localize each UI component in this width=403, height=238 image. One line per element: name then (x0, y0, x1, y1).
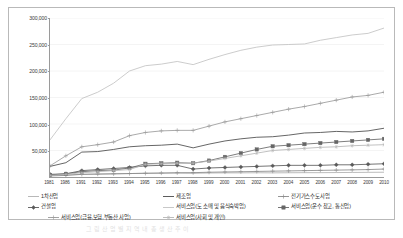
y-axis-tick-mark (48, 18, 50, 19)
y-axis-tick-label: 200,000 (29, 68, 47, 74)
legend-item-label: 1차산업 (41, 194, 58, 199)
figure-caption: 그 림 산 업 별 지 역 내 총 생 산 추 이 (86, 224, 318, 236)
figure-caption-text: 그 림 산 업 별 지 역 내 총 생 산 추 이 (86, 224, 318, 233)
x-axis-tick-label: 1997 (172, 180, 182, 185)
legend-marker-icon (163, 204, 174, 211)
legend-item[interactable]: 건설업 (28, 204, 55, 211)
legend-item[interactable]: 전기가스수도사업 (278, 193, 329, 200)
x-axis-tick-label: 2002 (252, 180, 262, 185)
x-axis-tick-label: 2006 (315, 180, 325, 185)
x-axis-tick-label: 1991 (76, 180, 86, 185)
legend-item-label: 서비스업(도 소매 및 음식숙박업) (176, 204, 245, 209)
y-axis-tick-mark (48, 45, 50, 46)
legend-marker-icon (163, 193, 174, 200)
x-axis-tick-label: 1995 (140, 180, 150, 185)
chart-frame: 300,000250,000200,000150,000100,00050,00… (8, 7, 395, 220)
legend-item-label: 서비스업(운수 창고, 통신업) (291, 204, 351, 209)
x-axis-tick-label: 2010 (379, 180, 389, 185)
series-1 (50, 128, 384, 166)
legend-marker-icon (48, 214, 59, 221)
series-6 (50, 90, 384, 168)
x-axis-tick-label: 1993 (108, 180, 118, 185)
legend-marker-icon (28, 193, 39, 200)
y-axis-tick-mark (48, 71, 50, 72)
x-axis-tick-label: 1998 (188, 180, 198, 185)
legend-item-label: 제조업 (176, 194, 190, 199)
y-axis-tick-label: 50,000 (32, 148, 47, 154)
figure-container: 300,000250,000200,000150,000100,00050,00… (0, 0, 403, 238)
legend-item-label: 서비스업(금융,보험,부동산 사업) (61, 215, 130, 220)
x-axis-tick-label: 1986 (60, 180, 70, 185)
x-axis-tick-label: 1992 (92, 180, 102, 185)
y-axis-tick-label: 250,000 (29, 42, 47, 48)
legend-item-label: 건설업 (41, 204, 55, 209)
x-axis-tick-label: 2005 (299, 180, 309, 185)
chart-canvas (50, 18, 384, 177)
legend-marker-icon (28, 204, 39, 211)
x-axis-tick-label: 1981 (44, 180, 54, 185)
legend-row-1: 1차산업제조업전기가스수도사업 (23, 193, 383, 203)
y-axis-tick-mark (48, 151, 50, 152)
y-axis-tick-label: 150,000 (29, 95, 47, 101)
legend-row-3: 서비스업(금융,보험,부동산 사업)서비스업(사회 및 개인) (23, 214, 383, 224)
legend-item-label: 전기가스수도사업 (291, 194, 329, 199)
y-axis-tick-mark (48, 125, 50, 126)
legend-item[interactable]: 서비스업(운수 창고, 통신업) (278, 204, 351, 211)
series-2 (50, 167, 384, 177)
x-axis-tick-label: 1996 (156, 180, 166, 185)
x-axis-tick-label: 1999 (204, 180, 214, 185)
legend-item[interactable]: 서비스업(사회 및 개인) (163, 214, 225, 221)
x-axis-tick-label: 2007 (331, 180, 341, 185)
legend-item[interactable]: 서비스업(금융,보험,부동산 사업) (48, 214, 130, 221)
y-axis-tick-mark (48, 98, 50, 99)
x-axis-tick-label: 2009 (363, 180, 373, 185)
plot-area: 300,000250,000200,000150,000100,00050,00… (49, 18, 384, 178)
x-axis-labels: 1981198619911992199319941995199619971998… (49, 180, 384, 190)
chart-legend: 1차산업제조업전기가스수도사업 건설업서비스업(도 소매 및 음식숙박업)서비스… (23, 193, 383, 225)
series-4 (50, 28, 384, 140)
x-axis-tick-label: 2008 (347, 180, 357, 185)
legend-item[interactable]: 1차산업 (28, 193, 58, 200)
legend-row-2: 건설업서비스업(도 소매 및 음식숙박업)서비스업(운수 창고, 통신업) (23, 204, 383, 214)
series-5 (50, 137, 384, 176)
x-axis-tick-label: 2000 (220, 180, 230, 185)
y-axis-tick-label: 100,000 (29, 122, 47, 128)
x-axis-tick-label: 2003 (268, 180, 278, 185)
legend-marker-icon (278, 193, 289, 200)
x-axis-tick-label: 2004 (283, 180, 293, 185)
legend-item[interactable]: 서비스업(도 소매 및 음식숙박업) (163, 204, 245, 211)
x-axis-tick-label: 2001 (236, 180, 246, 185)
x-axis-tick-label: 1994 (124, 180, 134, 185)
y-axis-tick-label: 300,000 (29, 15, 47, 21)
legend-item-label: 서비스업(사회 및 개인) (176, 215, 225, 220)
legend-marker-icon (163, 214, 174, 221)
legend-marker-icon (278, 204, 289, 211)
legend-item[interactable]: 제조업 (163, 193, 190, 200)
